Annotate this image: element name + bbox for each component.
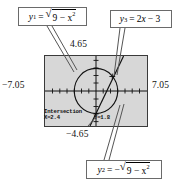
intersection-readout-x: X=2.4 [44,115,60,121]
radical-sign-icon: √ [46,8,52,19]
callout-y1-radicand-exponent: 2 [72,10,75,17]
callout-y2-radicand-base: 9 − x [127,166,147,176]
figure-root: Intersection X=2.4 Y=1.8 4.65 −4.65 −7.0… [0,0,186,187]
callout-y1-radical: √9 − x2 [46,9,77,24]
intersection-readout-y: Y=1.8 [94,115,110,121]
window-xmin-label: −7.05 [2,80,24,90]
callout-y1: y1=√9 − x2 [18,7,87,26]
callout-y1-radicand: 9 − x2 [52,9,77,24]
window-xmax-label: 7.05 [152,80,169,90]
callout-y3-constant: − 3 [146,14,162,24]
callout-y2-radical: √9 − x2 [120,162,151,177]
callout-y3: y3=2x− 3 [110,10,172,28]
window-ymax-label: 4.65 [70,39,87,49]
radical-sign-icon: √ [120,161,126,172]
callout-y2: y2=−√9 − x2 [86,160,162,179]
callout-y2-radicand: 9 − x2 [126,162,151,177]
callout-y1-equals: = [36,12,45,22]
callout-y1-radicand-base: 9 − x [53,13,73,23]
callout-y2-radicand-exponent: 2 [146,163,149,170]
window-ymin-label: −4.65 [66,129,88,139]
callout-y3-equals: = [127,14,136,24]
callout-y2-equals: = [105,165,114,175]
